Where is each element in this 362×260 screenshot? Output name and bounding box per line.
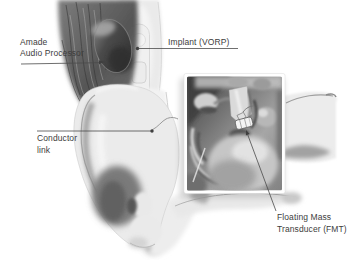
label-implant-vorp: Implant (VORP): [168, 37, 229, 48]
right-shoulder: [284, 92, 337, 163]
label-floating-mass-transducer: Floating Mass Transducer (FMT): [277, 212, 347, 235]
label-amade-line2: Audio Processor: [20, 48, 84, 59]
inset-anatomy: [179, 76, 283, 197]
label-amade-audio-processor: Amade Audio Processor: [20, 37, 84, 58]
ear-canal: [127, 198, 137, 214]
hearing-implant-diagram: Amade Audio Processor Implant (VORP) Con…: [0, 0, 362, 260]
label-amade-line1: Amade: [20, 37, 84, 48]
label-conductor-link: Conductor link: [37, 133, 77, 156]
middle-ear-inset: [179, 74, 285, 198]
